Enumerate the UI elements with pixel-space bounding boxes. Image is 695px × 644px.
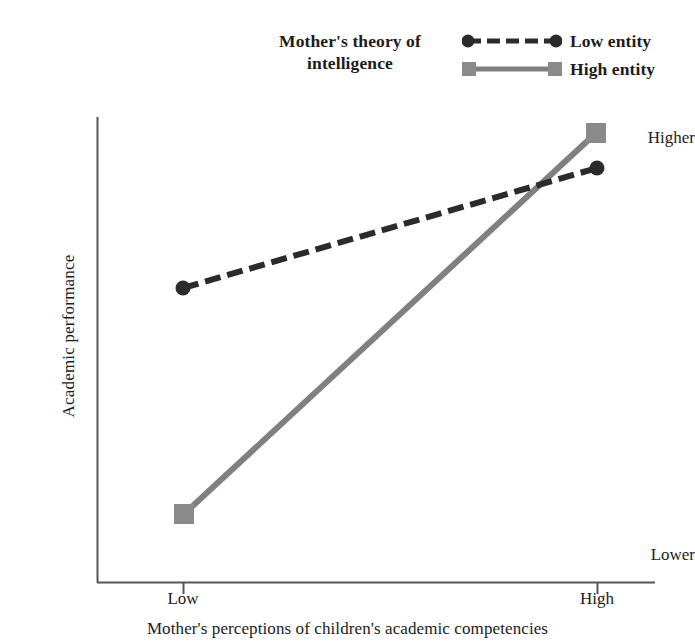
data-point-low-entity-high	[590, 161, 605, 176]
x-tick-label-low: Low	[123, 589, 243, 609]
series-high-entity-line	[184, 133, 596, 514]
x-tick-label-high: High	[537, 589, 657, 609]
data-point-low-entity-low	[176, 281, 191, 296]
y-tick-label-lower: Lower	[603, 545, 695, 565]
x-axis-title: Mother's perceptions of children's acade…	[0, 619, 695, 639]
plot-area	[0, 0, 695, 644]
data-point-high-entity-low	[174, 504, 194, 524]
y-axis-title: Academic performance	[59, 221, 79, 451]
y-tick-label-higher: Higher	[603, 128, 695, 148]
chart-figure: Mother's theory of intelligence Low enti…	[0, 0, 695, 644]
